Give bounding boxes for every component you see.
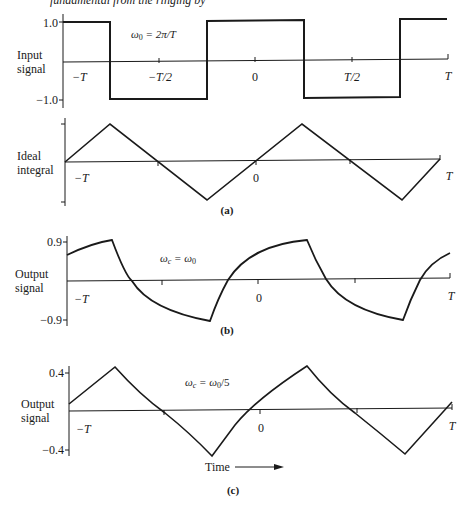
y-tick-label: −1.0 bbox=[36, 93, 58, 107]
header-text: fundamental from the ringing by bbox=[50, 0, 206, 7]
x-tick-label: −T/2 bbox=[148, 70, 172, 84]
y-label: integral bbox=[17, 163, 54, 177]
annotation: ωc = ω0 bbox=[160, 252, 196, 266]
panel-a-integral: Ideal integral −T 0 T (a) bbox=[17, 118, 454, 217]
y-tick-label: 0.9 bbox=[47, 235, 62, 249]
annotation: ωc = ω0/5 bbox=[185, 376, 230, 390]
x-tick-label: T bbox=[446, 169, 454, 183]
y-label: signal bbox=[15, 281, 44, 295]
y-label: signal bbox=[17, 62, 46, 76]
panel-c: 0.4 −0.4 Output signal −T 0 T ωc = ω0/5 … bbox=[21, 366, 457, 497]
panel-label: (b) bbox=[220, 324, 234, 337]
x-tick-label: −T bbox=[74, 292, 90, 306]
y-label: Input bbox=[17, 48, 43, 62]
y-tick-label: 0.4 bbox=[49, 366, 64, 380]
y-label: signal bbox=[21, 411, 50, 425]
annotation: ω0 = 2π/T bbox=[131, 28, 177, 42]
y-tick-label: −0.9 bbox=[40, 313, 62, 327]
x-tick-label: T/2 bbox=[344, 70, 360, 84]
y-tick-label: 1.0 bbox=[43, 16, 58, 30]
panel-label: (a) bbox=[221, 204, 234, 217]
x-tick-label: −T bbox=[74, 171, 90, 185]
panel-label: (c) bbox=[227, 484, 240, 497]
x-tick-label: T bbox=[448, 289, 456, 303]
panel-a-input: 1.0 −1.0 Input signal −T −T/2 0 T/2 T ω0… bbox=[17, 14, 453, 108]
x-axis bbox=[65, 159, 440, 162]
x-tick-label: 0 bbox=[258, 421, 264, 435]
x-tick-label: −T bbox=[72, 70, 88, 84]
arrow-head-icon bbox=[274, 464, 284, 470]
y-tick-label: −0.4 bbox=[42, 443, 64, 457]
x-tick-label: 0 bbox=[256, 291, 262, 305]
y-label: Output bbox=[15, 267, 49, 281]
x-tick-label: T bbox=[449, 419, 457, 433]
x-tick-label: −T bbox=[76, 422, 92, 436]
panel-b: 0.9 −0.9 Output signal −T 0 T ωc = ω0 (b… bbox=[15, 235, 456, 337]
x-axis-label: Time bbox=[205, 460, 230, 474]
x-tick-label: T bbox=[445, 69, 453, 83]
x-tick-label: 0 bbox=[252, 70, 258, 84]
figure: fundamental from the ringing by 1.0 −1.0… bbox=[0, 0, 472, 510]
x-tick-label: 0 bbox=[253, 171, 259, 185]
y-label: Ideal bbox=[17, 149, 42, 163]
y-label: Output bbox=[21, 397, 55, 411]
